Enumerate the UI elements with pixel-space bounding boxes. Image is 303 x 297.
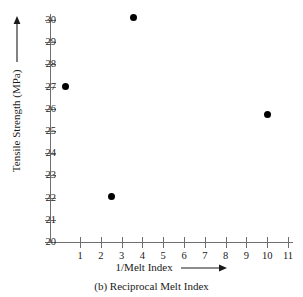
y-axis-tick-label: 22 [34, 193, 56, 204]
y-axis-tick-label: 30 [34, 15, 56, 26]
plot-area: 2021222324252627282930 1234567891011 Ten… [0, 0, 303, 250]
y-axis-title: Tensile Strength (MPa) [10, 6, 22, 182]
x-axis-tick [267, 237, 268, 248]
x-axis-line [50, 242, 293, 243]
y-axis-tick-label: 25 [34, 126, 56, 137]
x-axis-tick [142, 237, 143, 248]
x-axis-tick [288, 237, 289, 248]
y-axis-tick-label: 27 [34, 82, 56, 93]
y-axis-title-text: Tensile Strength (MPa) [10, 70, 22, 173]
x-axis-tick [163, 237, 164, 248]
figure-scatter-plot: 2021222324252627282930 1234567891011 Ten… [0, 0, 303, 297]
up-arrow-icon [13, 16, 21, 62]
x-axis-tick [205, 237, 206, 248]
x-axis-tick [101, 237, 102, 248]
x-axis-tick-label: 11 [276, 250, 300, 261]
data-point [62, 83, 69, 90]
x-axis-tick [246, 237, 247, 248]
y-axis-tick-label: 21 [34, 215, 56, 226]
y-axis-tick-label: 20 [34, 237, 56, 248]
x-axis-tick [122, 237, 123, 248]
figure-caption: (b) Reciprocal Melt Index [0, 280, 303, 292]
y-axis-tick-label: 28 [34, 59, 56, 70]
y-axis-tick-label: 24 [34, 148, 56, 159]
data-point [264, 111, 271, 118]
x-axis-tick [184, 237, 185, 248]
x-axis-tick [80, 237, 81, 248]
x-axis-tick [226, 237, 227, 248]
y-axis-tick-label: 29 [34, 37, 56, 48]
data-point [108, 193, 115, 200]
y-axis-tick-label: 26 [34, 104, 56, 115]
right-arrow-icon [181, 264, 227, 272]
data-point [130, 14, 137, 21]
x-axis-title: 1/Melt Index [50, 261, 293, 273]
x-axis-title-text: 1/Melt Index [116, 261, 173, 273]
y-axis-tick-label: 23 [34, 170, 56, 181]
